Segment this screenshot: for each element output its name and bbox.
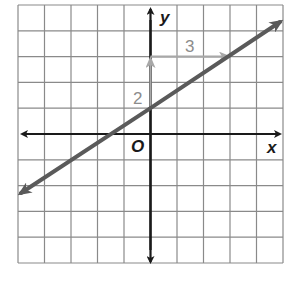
rise-label: 2: [133, 89, 142, 108]
graph-line: [151, 22, 281, 108]
x-axis-label: x: [266, 138, 278, 157]
origin-label: O: [131, 137, 144, 156]
coordinate-graph: y x O 2 3: [0, 0, 293, 288]
run-label: 3: [185, 37, 194, 56]
y-axis-label: y: [159, 8, 171, 27]
